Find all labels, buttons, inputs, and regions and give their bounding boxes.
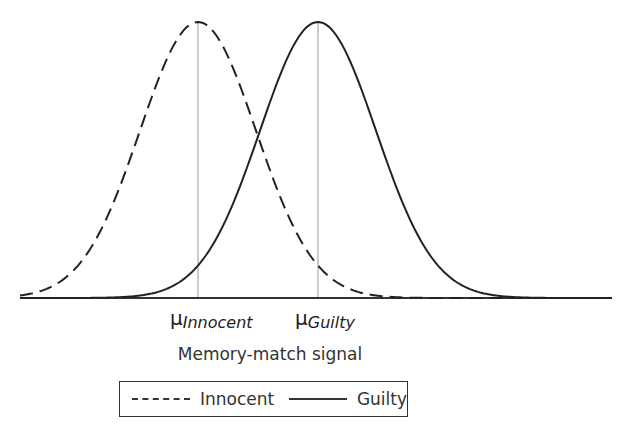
distribution-chart [0, 0, 620, 330]
legend: Innocent Guilty [119, 381, 408, 417]
legend-item-guilty: Guilty [289, 389, 407, 409]
mu-guilty-label: μGuilty [295, 306, 355, 330]
x-axis-label: Memory-match signal [0, 344, 540, 364]
mu-subscript: Innocent [183, 313, 253, 332]
legend-item-innocent: Innocent [132, 389, 274, 409]
dashed-line-icon [132, 398, 190, 400]
guilty-curve [20, 22, 612, 298]
legend-label: Guilty [357, 389, 407, 409]
innocent-curve [20, 22, 612, 298]
mu-symbol: μ [295, 306, 308, 330]
mu-innocent-label: μInnocent [170, 306, 253, 330]
legend-label: Innocent [200, 389, 274, 409]
mu-subscript: Guilty [308, 313, 355, 332]
solid-line-icon [289, 398, 347, 400]
mu-symbol: μ [170, 306, 183, 330]
